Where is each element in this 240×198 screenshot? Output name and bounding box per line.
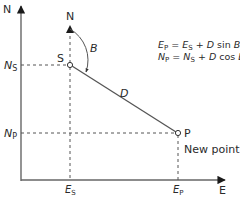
bearing-label: B [90,42,98,55]
ep-label: EP [173,184,184,197]
north-axis-label: N [3,3,11,16]
formula-northing: NP = NS + D cos B [158,51,240,64]
new-point-caption: New point [184,143,240,156]
distance-label: D [120,87,128,100]
diagram-canvas: N E N B D S P New point NS NP ES EP EP =… [0,0,240,198]
start-point-label: S [57,52,64,65]
np-label: NP [4,127,17,141]
ns-label: NS [4,59,17,73]
start-point-marker [67,62,72,67]
es-label: ES [65,184,76,197]
east-axis-label: E [219,184,226,197]
formula-easting: EP = ES + D sin B [158,39,240,52]
end-point-label: P [184,127,191,140]
local-north-label: N [66,10,74,23]
end-point-marker [175,130,180,135]
